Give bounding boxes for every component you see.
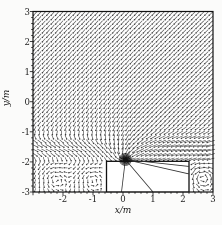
x-tick-label: 0 [114,194,132,204]
y-tick-label: -2 [12,157,30,167]
y-tick-label: 2 [12,37,30,47]
vector-field-canvas [0,0,222,225]
x-axis-label: x/m [103,205,143,215]
x-tick-label: 1 [144,194,162,204]
quiver-figure: -2-101233210-1-2-3 x/m y/m [0,0,222,225]
x-tick-label: 2 [174,194,192,204]
y-tick-label: 0 [12,97,30,107]
y-tick-label: -1 [12,127,30,137]
x-tick-label: 3 [204,194,222,204]
x-tick-label: -1 [84,194,102,204]
y-tick-label: -3 [12,187,30,197]
y-axis-label: y/m [1,85,11,111]
y-tick-label: 3 [12,7,30,17]
x-tick-label: -2 [54,194,72,204]
y-tick-label: 1 [12,67,30,77]
